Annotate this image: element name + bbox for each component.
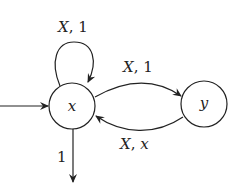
edge-x-to-y-label: X, 1	[122, 58, 153, 76]
output-arrow: 1	[57, 129, 73, 182]
state-node-y-label: y	[199, 94, 209, 112]
state-diagram: X, 1 X, 1 X, x 1 x y	[0, 0, 236, 186]
output-label: 1	[57, 148, 67, 166]
state-node-x: x	[49, 83, 95, 129]
self-loop-x: X, 1	[55, 18, 93, 86]
state-node-x-label: x	[68, 97, 77, 115]
edge-y-to-x-label: X, x	[119, 135, 149, 153]
edge-y-to-x: X, x	[96, 116, 183, 153]
state-node-y: y	[181, 81, 227, 127]
self-loop-label: X, 1	[57, 18, 88, 36]
edge-x-to-y: X, 1	[95, 58, 181, 97]
